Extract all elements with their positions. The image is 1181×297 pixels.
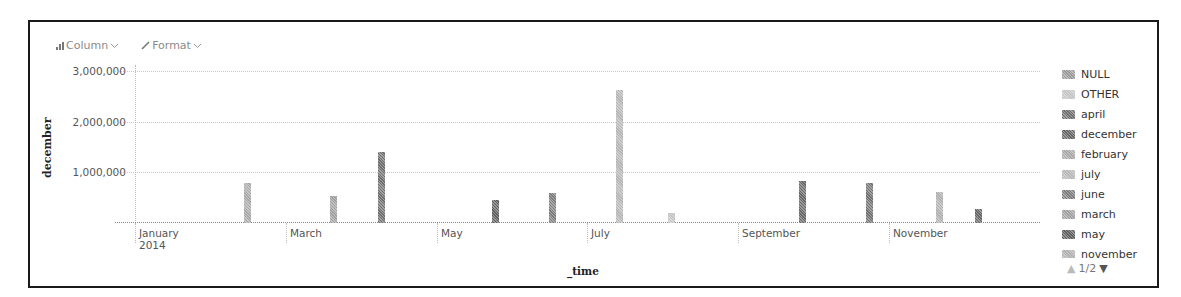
- column-bar[interactable]: [866, 183, 873, 223]
- plot-area: [135, 71, 1040, 223]
- legend-label: july: [1081, 168, 1101, 181]
- chevron-down-icon: [110, 43, 119, 49]
- legend-item[interactable]: may: [1062, 224, 1154, 244]
- gridline: [115, 71, 1040, 72]
- legend: NULLOTHERaprildecemberfebruaryjulyjunema…: [1062, 64, 1154, 258]
- legend-item[interactable]: november: [1062, 244, 1154, 258]
- bar-chart-icon: [56, 42, 64, 50]
- legend-label: june: [1081, 188, 1105, 201]
- legend-swatch: [1062, 70, 1075, 79]
- x-axis-line: [115, 222, 1040, 223]
- legend-item[interactable]: march: [1062, 204, 1154, 224]
- legend-item[interactable]: july: [1062, 164, 1154, 184]
- legend-swatch: [1062, 90, 1075, 99]
- legend-pager: ▲ 1/2 ▼: [1067, 262, 1108, 275]
- legend-label: february: [1081, 148, 1128, 161]
- x-tick: [738, 223, 739, 243]
- legend-swatch: [1062, 150, 1075, 159]
- column-bar[interactable]: [492, 200, 499, 223]
- triangle-down-icon[interactable]: ▼: [1099, 262, 1107, 275]
- column-bar[interactable]: [378, 152, 385, 223]
- gridline: [115, 172, 1040, 173]
- legend-item[interactable]: april: [1062, 104, 1154, 124]
- legend-swatch: [1062, 110, 1075, 119]
- x-axis-title: _time: [567, 265, 599, 277]
- y-axis-line: [135, 65, 136, 223]
- legend-item[interactable]: june: [1062, 184, 1154, 204]
- legend-label: OTHER: [1081, 88, 1119, 101]
- legend-item[interactable]: NULL: [1062, 64, 1154, 84]
- column-bar[interactable]: [616, 90, 623, 223]
- legend-label: may: [1081, 228, 1105, 241]
- x-tick-label: March: [290, 227, 322, 239]
- column-bar[interactable]: [330, 196, 337, 223]
- x-tick-label: May: [441, 227, 463, 239]
- column-bar[interactable]: [244, 183, 251, 223]
- chevron-down-icon: [193, 43, 202, 49]
- chart-type-button[interactable]: Column: [56, 39, 119, 52]
- gridline: [115, 122, 1040, 123]
- legend-item[interactable]: february: [1062, 144, 1154, 164]
- legend-label: april: [1081, 108, 1105, 121]
- column-bar[interactable]: [975, 209, 982, 223]
- x-tick-label: July: [591, 227, 610, 239]
- chart-type-label: Column: [66, 39, 108, 52]
- format-label: Format: [152, 39, 191, 52]
- x-tick-label: September: [742, 227, 800, 239]
- legend-swatch: [1062, 250, 1075, 259]
- legend-label: november: [1081, 248, 1137, 259]
- legend-label: NULL: [1081, 68, 1110, 81]
- column-bar[interactable]: [668, 213, 675, 223]
- legend-label: december: [1081, 128, 1137, 141]
- legend-label: march: [1081, 208, 1116, 221]
- chart-toolbar: Column Format: [56, 39, 202, 52]
- column-bar[interactable]: [799, 181, 806, 223]
- legend-swatch: [1062, 190, 1075, 199]
- x-tick: [286, 223, 287, 243]
- legend-swatch: [1062, 170, 1075, 179]
- column-bar[interactable]: [936, 192, 943, 223]
- column-bar[interactable]: [549, 193, 556, 223]
- legend-item[interactable]: OTHER: [1062, 84, 1154, 104]
- legend-swatch: [1062, 230, 1075, 239]
- triangle-up-icon[interactable]: ▲: [1067, 262, 1075, 275]
- pencil-icon: [141, 41, 150, 50]
- legend-swatch: [1062, 130, 1075, 139]
- x-tick-label: November: [893, 227, 948, 239]
- x-tick: [135, 223, 136, 243]
- x-tick: [889, 223, 890, 243]
- x-tick-label: January 2014: [139, 227, 179, 251]
- legend-swatch: [1062, 210, 1075, 219]
- y-axis-title: december: [41, 118, 57, 178]
- legend-item[interactable]: december: [1062, 124, 1154, 144]
- format-button[interactable]: Format: [141, 39, 202, 52]
- legend-page-indicator: 1/2: [1078, 262, 1096, 275]
- x-tick: [587, 223, 588, 243]
- x-tick: [437, 223, 438, 243]
